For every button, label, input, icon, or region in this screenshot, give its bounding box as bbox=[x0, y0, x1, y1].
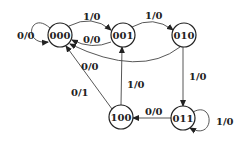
state-label-100: 100 bbox=[111, 112, 132, 123]
edge-label-100-001: 1/0 bbox=[127, 79, 145, 90]
state-diagram: 000 001 010 011 100 0/0 1/0 0/0 1/0 0/0 … bbox=[0, 0, 247, 141]
edge-label-001-010: 1/0 bbox=[145, 10, 163, 21]
state-label-010: 010 bbox=[174, 30, 195, 41]
edge-label-010-000: 0/0 bbox=[81, 61, 99, 72]
edge-label-001-000: 0/0 bbox=[83, 34, 101, 45]
edge-label-011-011: 1/0 bbox=[216, 116, 234, 127]
edge-label-100-000: 0/1 bbox=[71, 87, 89, 98]
state-label-000: 000 bbox=[50, 30, 71, 41]
edge-label-000-001: 1/0 bbox=[83, 11, 101, 22]
edge-000-001 bbox=[69, 21, 111, 30]
edge-100-001 bbox=[121, 47, 122, 105]
edge-label-010-011: 1/0 bbox=[189, 71, 207, 82]
edge-label-000-000: 0/0 bbox=[17, 30, 35, 41]
edge-label-011-100: 0/0 bbox=[145, 106, 163, 117]
edge-100-000 bbox=[66, 46, 112, 109]
state-label-011: 011 bbox=[173, 113, 194, 124]
state-label-001: 001 bbox=[113, 30, 134, 41]
edge-001-010 bbox=[132, 22, 173, 30]
